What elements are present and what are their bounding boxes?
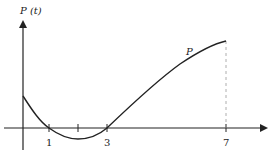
y-axis-label: P (t) [19, 5, 42, 16]
x-tick-label-1: 1 [46, 137, 52, 148]
graph-of-p: 1 3 7 P (t) P [0, 0, 272, 152]
curve-p [23, 41, 226, 139]
x-tick-label-3: 3 [104, 137, 110, 148]
curve-label-p: P [185, 46, 193, 57]
x-tick-label-7: 7 [223, 137, 229, 148]
